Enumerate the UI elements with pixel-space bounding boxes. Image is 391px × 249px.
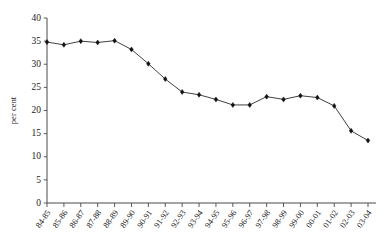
x-tick-label: 97-98 [254,208,273,229]
x-axis: 84-8585-8686-8787-8888-8989-9090-9191-92… [34,203,376,230]
y-axis-title-text: per cent [8,96,18,124]
data-point-marker [113,38,117,43]
x-tick-label: 02-03 [338,208,357,229]
data-point-marker [248,102,252,107]
x-tick-label: 93-94 [186,208,205,230]
x-tick-label: 00-01 [304,208,323,229]
data-series [45,38,370,143]
data-point-marker [130,47,134,52]
data-point-marker [282,97,286,102]
data-point-marker [180,90,184,95]
data-point-marker [163,77,167,82]
y-axis: 0510152025303540 [32,13,48,208]
y-tick-label: 20 [32,105,42,115]
data-point-marker [366,138,370,143]
y-tick-label: 5 [36,175,41,185]
data-point-marker [197,92,201,97]
data-point-marker [265,94,269,99]
y-tick-label: 40 [32,13,42,23]
x-tick-label: 88-89 [102,208,121,229]
y-tick-label: 30 [32,59,42,69]
x-tick-label: 92-93 [169,208,188,229]
y-axis-title: per cent [8,96,18,124]
y-tick-label: 25 [32,82,42,92]
data-point-marker [45,40,49,45]
data-point-marker [96,40,100,45]
x-tick-label: 95-96 [220,208,239,229]
y-tick-label: 35 [32,36,42,46]
x-tick-label: 90-91 [135,208,154,229]
x-tick-label: 94-95 [203,208,222,229]
line-chart: 0510152025303540 84-8585-8686-8787-8888-… [0,0,391,249]
series-line-path [47,41,368,141]
x-tick-label: 98-99 [271,208,290,229]
y-tick-label: 15 [32,128,42,138]
x-tick-label: 96-97 [237,208,256,229]
data-point-marker [147,61,151,66]
data-point-marker [299,93,303,98]
x-tick-label: 85-86 [51,208,70,229]
chart-container: 0510152025303540 84-8585-8686-8787-8888-… [0,0,391,249]
data-point-marker [214,97,218,102]
data-point-marker [79,39,83,44]
y-tick-label: 0 [36,198,41,208]
x-tick-label: 87-88 [85,208,104,229]
x-tick-label: 91-92 [152,208,171,229]
y-tick-label: 10 [32,151,42,161]
data-point-marker [316,95,320,100]
x-tick-label: 89-90 [119,208,138,229]
x-tick-label: 99-00 [287,208,306,229]
x-tick-label: 01-02 [321,208,340,229]
x-tick-label: 86-87 [68,208,87,229]
data-point-marker [62,42,66,47]
x-tick-label: 84-85 [34,208,53,229]
x-tick-label: 03-04 [355,208,374,230]
data-point-marker [231,102,235,107]
